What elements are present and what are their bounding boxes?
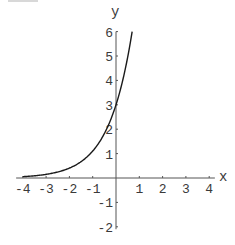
x-tick-label: -3 <box>38 182 54 197</box>
x-tick-label: 4 <box>205 182 213 197</box>
y-axis-label: y <box>111 4 119 20</box>
y-tick-label: 1 <box>105 148 113 163</box>
ticks: -4-3-2-11234-2-1123456 <box>15 26 213 236</box>
x-tick-label: -1 <box>85 182 101 197</box>
y-tick-label: 3 <box>105 99 113 114</box>
x-tick-label: 2 <box>159 182 167 197</box>
cropped-caption-artifact <box>8 0 38 2</box>
y-tick-label: -2 <box>97 221 113 236</box>
y-tick-label: 4 <box>105 74 113 89</box>
x-tick-label: 1 <box>135 182 143 197</box>
x-tick-label: -4 <box>15 182 31 197</box>
y-tick-label: -1 <box>97 196 113 211</box>
y-tick-label: 6 <box>105 26 113 41</box>
x-tick-label: -2 <box>62 182 78 197</box>
x-tick-label: 3 <box>182 182 190 197</box>
exponential-chart: -4-3-2-11234-2-1123456 x y <box>0 0 235 245</box>
x-axis-label: x <box>219 169 227 185</box>
axes <box>16 32 215 230</box>
y-tick-label: 5 <box>105 50 113 65</box>
